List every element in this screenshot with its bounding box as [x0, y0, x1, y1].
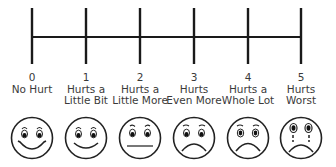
big-smile-face-icon: [9, 116, 55, 160]
crying-face-icon: [278, 116, 324, 160]
frown-face-icon: [225, 116, 271, 160]
pain-scale-line: [0, 0, 336, 70]
smile-face-icon: [63, 116, 109, 160]
slight-frown-face-icon: [171, 116, 217, 160]
level-text-line2: Worst: [266, 95, 336, 107]
level-number: 5: [266, 72, 336, 84]
neutral-face-icon: [117, 116, 163, 160]
level-5-label: 5 Hurts Worst: [266, 72, 336, 107]
